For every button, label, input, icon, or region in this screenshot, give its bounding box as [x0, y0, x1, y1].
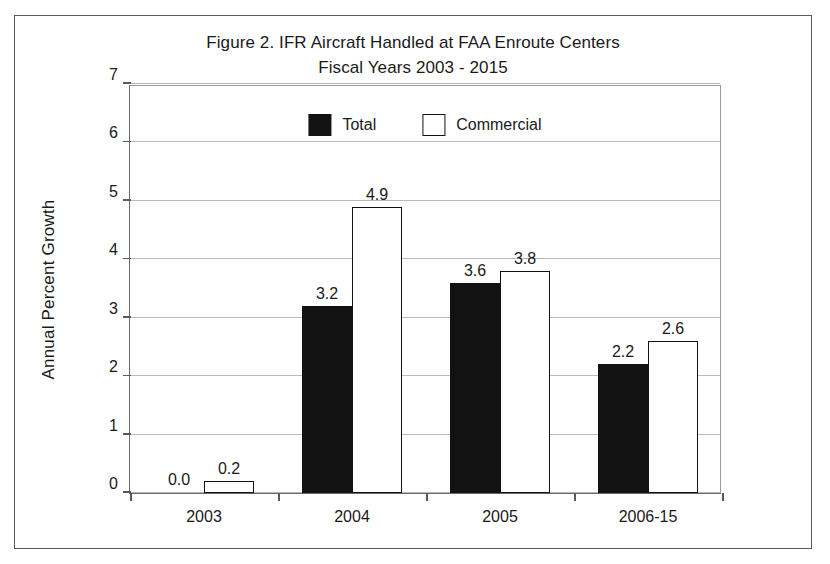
gridline [130, 200, 720, 201]
bar-value-label: 2.2 [612, 343, 634, 361]
y-axis-label: 2 [109, 358, 118, 376]
y-axis-tick [123, 258, 131, 260]
y-axis-label: 3 [109, 300, 118, 318]
legend-label-commercial: Commercial [456, 116, 541, 134]
y-axis-label: 0 [109, 475, 118, 493]
bar-commercial-2005: 3.8 [500, 271, 550, 493]
x-axis-label-2004: 2004 [334, 508, 370, 526]
y-axis-label: 1 [109, 417, 118, 435]
y-axis-tick [123, 316, 131, 318]
legend-swatch-total-icon [308, 114, 331, 136]
y-axis-label: 4 [109, 241, 118, 259]
bar-commercial-2004: 4.9 [352, 207, 402, 493]
chart-title-line-1: Figure 2. IFR Aircraft Handled at FAA En… [15, 30, 811, 55]
bar-value-label: 0.2 [218, 460, 240, 478]
y-axis-label: 7 [109, 66, 118, 84]
legend-item-commercial: Commercial [422, 114, 541, 136]
figure-frame: Figure 2. IFR Aircraft Handled at FAA En… [14, 15, 812, 549]
y-axis-tick [123, 199, 131, 201]
bar-total-2004: 3.2 [302, 306, 352, 493]
bar-commercial-2006-15: 2.6 [648, 341, 698, 493]
bar-value-label: 3.2 [316, 285, 338, 303]
bar-commercial-2003: 0.2 [204, 481, 254, 493]
y-axis-tick [123, 375, 131, 377]
bar-total-2006-15: 2.2 [598, 364, 648, 493]
chart-legend: Total Commercial [308, 114, 541, 136]
y-axis-tick [123, 433, 131, 435]
bar-value-label: 2.6 [662, 320, 684, 338]
legend-label-total: Total [342, 116, 376, 134]
gridline [130, 141, 720, 142]
y-axis-tick [123, 141, 131, 143]
x-axis-tick [278, 493, 280, 501]
legend-item-total: Total [308, 114, 376, 136]
x-axis-label-2003: 2003 [186, 508, 222, 526]
bar-value-label: 0.0 [168, 471, 190, 489]
y-axis-title: Annual Percent Growth [39, 85, 65, 494]
y-axis-tick [123, 82, 131, 84]
legend-swatch-commercial-icon [422, 114, 445, 136]
x-axis-label-2005: 2005 [482, 508, 518, 526]
gridline [130, 258, 720, 259]
bar-value-label: 4.9 [366, 186, 388, 204]
bar-value-label: 3.6 [464, 262, 486, 280]
x-axis-tick-origin [130, 493, 132, 501]
x-axis-tick [722, 493, 724, 501]
gridline [130, 317, 720, 318]
x-axis-tick [426, 493, 428, 501]
bar-total-2005: 3.6 [450, 283, 500, 493]
bar-value-label: 3.8 [514, 250, 536, 268]
x-axis-tick [574, 493, 576, 501]
y-axis-label: 6 [109, 124, 118, 142]
gridline [130, 83, 720, 84]
y-axis-label: 5 [109, 183, 118, 201]
chart-title-line-2: Fiscal Years 2003 - 2015 [15, 55, 811, 80]
plot-area: 01234567 0.00.23.24.93.63.82.22.6 200320… [129, 85, 721, 494]
x-axis-label-2006-15: 2006-15 [619, 508, 678, 526]
chart-title: Figure 2. IFR Aircraft Handled at FAA En… [15, 30, 811, 80]
